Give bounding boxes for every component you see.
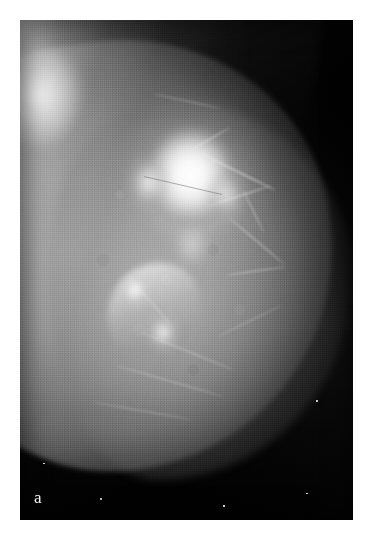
- glandular-mottle-layer: [20, 20, 353, 520]
- figure-root: a: [0, 0, 369, 546]
- mammogram-image: a: [20, 20, 353, 520]
- panel-label: a: [34, 489, 42, 506]
